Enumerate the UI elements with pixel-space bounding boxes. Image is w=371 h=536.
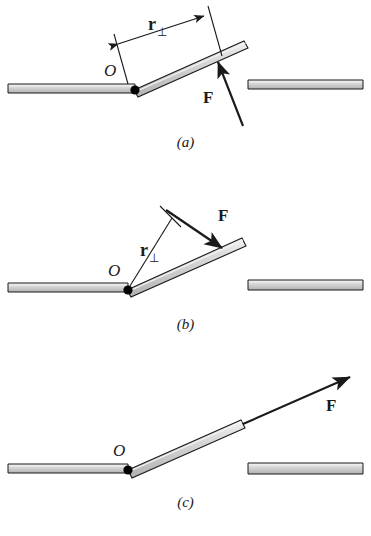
pivot-point-b <box>123 285 132 294</box>
force-label-c: F <box>326 396 336 415</box>
torque-figure: O r ⊥ F <box>0 0 371 536</box>
right-angle-tick-b <box>160 206 181 227</box>
moment-arm-subscript-a: ⊥ <box>157 25 167 39</box>
pivot-label-b: O <box>108 261 120 280</box>
panel-b-drawing: O r ⊥ F <box>0 180 371 360</box>
right-fixed-rod-b <box>248 280 363 290</box>
moment-arm-subscript-b: ⊥ <box>149 251 159 265</box>
pivot-label-a: O <box>104 61 116 80</box>
swinging-rod-a <box>134 41 248 97</box>
left-fixed-rod-a <box>8 84 135 93</box>
panel-a: O r ⊥ F <box>0 0 371 180</box>
caption-b: (b) <box>0 316 371 333</box>
panel-a-drawing: O r ⊥ F <box>0 0 371 180</box>
moment-arm-letter-a: r <box>148 14 156 34</box>
moment-arm-label-a: r ⊥ <box>148 14 167 39</box>
pivot-point-c <box>123 465 132 474</box>
force-arrow-b <box>166 210 222 248</box>
force-label-a: F <box>203 88 213 107</box>
panel-b: O r ⊥ F <box>0 180 371 360</box>
right-fixed-rod-a <box>248 80 363 89</box>
dimension-extension-right-a <box>208 6 222 56</box>
force-label-b: F <box>218 206 228 225</box>
caption-a: (a) <box>0 134 371 151</box>
left-fixed-rod-c <box>8 464 128 473</box>
right-fixed-rod-c <box>248 463 363 474</box>
force-arrow-a <box>218 62 243 126</box>
caption-c: (c) <box>0 494 371 511</box>
swinging-rod-c <box>128 420 245 478</box>
moment-arm-letter-b: r <box>140 240 148 260</box>
pivot-label-c: O <box>113 441 125 460</box>
pivot-point-a <box>130 85 139 94</box>
left-fixed-rod-b <box>8 283 128 292</box>
